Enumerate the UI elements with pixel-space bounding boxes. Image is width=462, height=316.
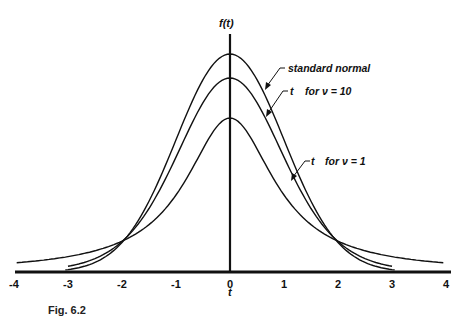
arrowhead-icon (265, 82, 271, 90)
arrowhead-icon (291, 173, 297, 181)
label-t-nu-1-t: t (311, 155, 315, 167)
x-tick-label: 2 (335, 278, 341, 290)
x-tick-label: -1 (171, 278, 181, 290)
x-tick-label: 1 (281, 278, 287, 290)
x-tick-label: -4 (9, 278, 20, 290)
x-tick-label: 3 (389, 278, 395, 290)
annotation-t-nu-10: t for ν = 10 (266, 85, 352, 117)
label-t-nu-10-rest: for ν = 10 (305, 85, 352, 97)
x-tick-label: -2 (117, 278, 127, 290)
label-standard-normal: standard normal (288, 62, 371, 74)
label-t-nu-10-t: t (290, 85, 294, 97)
x-tick-label: 4 (443, 278, 450, 290)
annotation-t-nu-1: t for ν = 1 (291, 155, 366, 181)
label-t-nu-1-rest: for ν = 1 (325, 155, 366, 167)
x-tick-label: -3 (63, 278, 73, 290)
figure-caption: Fig. 6.2 (48, 304, 86, 316)
y-axis-label: f(t) (219, 17, 234, 29)
